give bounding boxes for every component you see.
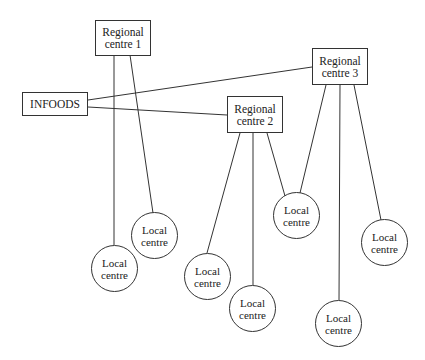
local-centre-label: centre	[325, 324, 352, 336]
edge-rc1-local2	[130, 55, 153, 213]
local-centre-label: Local	[101, 257, 128, 269]
regional-centre-1-node: Regional centre 1	[95, 20, 151, 56]
local-centre-label: centre	[371, 243, 398, 255]
local-centre-6: Localcentre	[315, 300, 362, 347]
local-centre-label: centre	[101, 269, 128, 281]
local-centre-label: centre	[194, 277, 221, 289]
local-centre-label: Local	[141, 224, 168, 236]
local-centre-label: centre	[141, 236, 168, 248]
regional-centre-1-line2: centre 1	[102, 38, 144, 50]
infoods-node: INFOODS	[22, 92, 88, 116]
local-centre-1: Localcentre	[91, 245, 138, 292]
local-centre-label: Local	[194, 265, 221, 277]
local-centre-label: centre	[283, 216, 310, 228]
regional-centre-2-line2: centre 2	[234, 115, 276, 127]
local-centre-label: centre	[239, 309, 266, 321]
local-centre-7: Localcentre	[361, 219, 408, 266]
edge-rc3-local7	[354, 85, 381, 220]
regional-centre-3-line1: Regional	[319, 55, 361, 67]
edge-infoods-rc2	[88, 107, 227, 115]
regional-centre-1-line1: Regional	[102, 26, 144, 38]
local-centre-label: Local	[239, 297, 266, 309]
edge-rc3-local5	[300, 85, 326, 193]
regional-centre-3-line2: centre 3	[319, 67, 361, 79]
local-centre-label: Local	[371, 231, 398, 243]
local-centre-5: Localcentre	[273, 192, 320, 239]
local-centre-label: Local	[325, 312, 352, 324]
regional-centre-3-node: Regional centre 3	[312, 48, 368, 85]
local-centre-label: Local	[283, 204, 310, 216]
edge-rc2-local3	[207, 133, 240, 253]
regional-centre-2-line1: Regional	[234, 103, 276, 115]
infoods-label: INFOODS	[30, 98, 80, 110]
local-centre-2: Localcentre	[131, 212, 178, 259]
local-centre-4: Localcentre	[229, 285, 276, 332]
edge-rc2-local5	[267, 133, 285, 196]
edge-rc3-local6	[339, 85, 340, 300]
regional-centre-2-node: Regional centre 2	[227, 96, 283, 133]
local-centre-3: Localcentre	[184, 253, 231, 300]
